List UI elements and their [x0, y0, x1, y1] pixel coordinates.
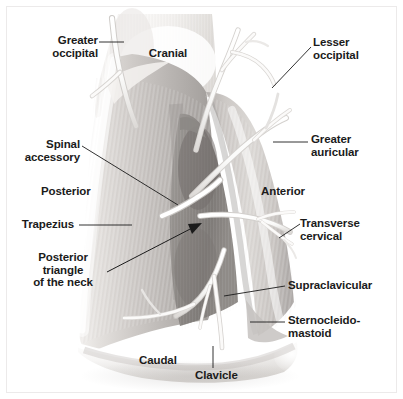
- label-cranial: Cranial: [140, 47, 196, 60]
- label-posterior-orientation: Posterior: [41, 185, 111, 198]
- label-transverse-cervical: Transverse cervical: [300, 217, 382, 242]
- label-trapezius: Trapezius: [12, 218, 74, 231]
- label-caudal: Caudal: [139, 354, 197, 367]
- label-greater-auricular: Greater auricular: [311, 133, 393, 158]
- label-clavicle: Clavicle: [195, 369, 259, 382]
- label-sternocleidomastoid: Sternocleido- mastoid: [288, 314, 388, 339]
- label-greater-occipital: Greater occipital: [20, 34, 98, 59]
- anatomical-figure: Greater occipital Cranial Lesser occipit…: [0, 0, 403, 399]
- label-posterior-triangle: Posterior triangle of the neck: [22, 251, 104, 289]
- label-supraclavicular: Supraclavicular: [288, 279, 393, 292]
- label-anterior-orientation: Anterior: [261, 185, 325, 198]
- label-spinal-accessory: Spinal accessory: [8, 138, 80, 163]
- label-lesser-occipital: Lesser occipital: [313, 36, 393, 61]
